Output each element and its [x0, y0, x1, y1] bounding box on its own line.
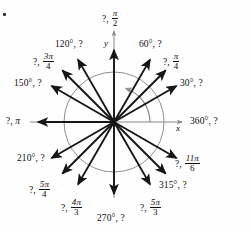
- label-300-deg: ?, 5π 3: [140, 198, 161, 217]
- label-135-prefix: ?,: [33, 57, 40, 67]
- label-330-prefix: ?,: [175, 159, 182, 169]
- label-90-prefix: ?,: [102, 14, 109, 24]
- fraction-pi-over-4: π 4: [173, 52, 180, 71]
- label-270-deg: 270°, ?: [97, 214, 125, 224]
- fraction-3pi-over-4: 3π 4: [43, 52, 54, 71]
- unit-circle-figure: y x ?, π 2 60°, ? ?, π 4 30°, ? 360°, ? …: [0, 0, 251, 232]
- label-60-deg: 60°, ?: [139, 40, 162, 50]
- label-360-deg: 360°, ?: [190, 117, 218, 127]
- label-30-deg: 30°, ?: [180, 79, 203, 89]
- label-225-deg: ?, 5π 4: [29, 180, 50, 199]
- label-180-deg: ?, π: [6, 117, 20, 127]
- label-240-deg: ?, 4π 3: [61, 198, 82, 217]
- label-90-deg: ?, π 2: [102, 9, 118, 28]
- label-45-deg: ?, π 4: [163, 52, 179, 71]
- y-axis-label: y: [104, 39, 108, 48]
- fraction-4pi-over-3: 4π 3: [71, 198, 82, 217]
- label-225-prefix: ?,: [29, 185, 36, 195]
- fraction-5pi-over-3: 5π 3: [150, 198, 161, 217]
- fraction-11pi-over-6: 11π 6: [185, 154, 200, 173]
- pi-symbol: π: [15, 116, 20, 126]
- label-45-prefix: ?,: [163, 57, 170, 67]
- fraction-5pi-over-4: 5π 4: [39, 180, 50, 199]
- label-240-prefix: ?,: [61, 203, 68, 213]
- label-120-deg: 120°, ?: [55, 40, 83, 50]
- label-150-deg: 150°, ?: [14, 79, 42, 89]
- x-axis-label: x: [176, 124, 180, 133]
- label-300-prefix: ?,: [140, 203, 147, 213]
- label-135-deg: ?, 3π 4: [33, 52, 54, 71]
- fraction-pi-over-2: π 2: [112, 9, 119, 28]
- label-210-deg: 210°, ?: [17, 154, 45, 164]
- label-330-deg: ?, 11π 6: [175, 154, 200, 173]
- label-180-prefix: ?,: [6, 116, 13, 126]
- label-315-deg: 315°, ?: [159, 181, 187, 191]
